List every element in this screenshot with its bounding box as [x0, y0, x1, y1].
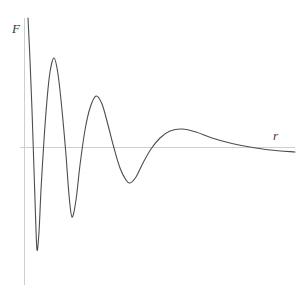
- series-group: [28, 18, 295, 250]
- plot-canvas: [0, 0, 303, 292]
- damped-oscillation-curve: [28, 18, 295, 250]
- x-axis-label: r: [273, 129, 278, 142]
- figure-container: F r: [0, 0, 303, 292]
- y-axis-label: F: [12, 22, 20, 35]
- axes-group: [20, 18, 295, 285]
